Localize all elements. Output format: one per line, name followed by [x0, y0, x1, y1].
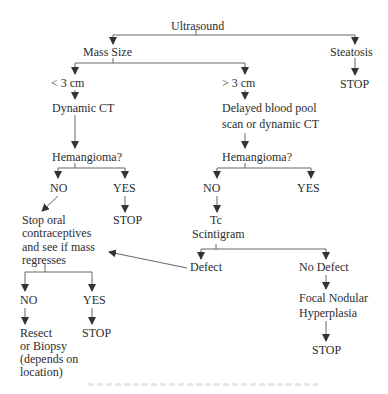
node-hemangioma-right: Hemangioma? [222, 150, 292, 165]
node-no-defect: No Defect [299, 260, 349, 275]
node-dynamic-ct: Dynamic CT [52, 101, 114, 116]
node-tc-line1: Tc [210, 213, 222, 228]
node-delayed-line2: scan or dynamic CT [222, 117, 319, 132]
node-delayed-line1: Delayed blood pool [222, 101, 317, 116]
node-right-no: NO [203, 181, 220, 196]
node-defect: Defect [190, 260, 222, 275]
node-left-no: NO [50, 181, 67, 196]
node-steatosis: Steatosis [330, 45, 373, 60]
node-right-yes: YES [297, 181, 320, 196]
node-fnh-line1: Focal Nodular [299, 291, 368, 306]
node-resect-line4: location) [20, 365, 63, 380]
node-lt-3cm: < 3 cm [51, 76, 84, 91]
node-hemangioma-left: Hemangioma? [52, 150, 122, 165]
node-mass-size: Mass Size [83, 45, 132, 60]
node-gt-3cm: > 3 cm [222, 76, 255, 91]
node-tc-line2: Scintigram [192, 227, 245, 242]
node-steatosis-stop: STOP [340, 77, 369, 92]
node-regress-no: NO [20, 293, 37, 308]
flowchart-canvas: Ultrasound Mass Size Steatosis STOP < 3 … [0, 0, 388, 394]
node-left-yes: YES [113, 181, 136, 196]
node-stop-oral-line4: regresses [22, 253, 66, 268]
node-fnh-stop: STOP [312, 343, 341, 358]
node-regress-yes: YES [83, 293, 106, 308]
node-fnh-line2: Hyperplasia [299, 306, 357, 321]
node-ultrasound: Ultrasound [171, 19, 224, 34]
faint-caption-line [88, 383, 318, 386]
node-left-yes-stop: STOP [113, 213, 142, 228]
node-regress-yes-stop: STOP [82, 326, 111, 341]
node-stop-oral-line2: contraceptives [22, 226, 91, 241]
